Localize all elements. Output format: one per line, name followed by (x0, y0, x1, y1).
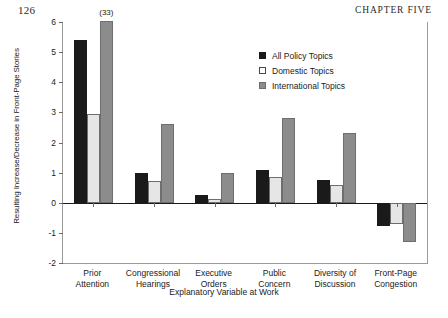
legend-item[interactable]: International Topics (259, 78, 409, 93)
bar[interactable] (330, 185, 343, 203)
y-axis-tick-label: 2 (51, 138, 56, 148)
y-axis-tick (59, 263, 63, 264)
bar[interactable] (195, 195, 208, 203)
x-axis-category-label: PriorAttention (76, 268, 110, 289)
bar[interactable] (403, 203, 416, 242)
x-axis-category-label-line: Hearings (126, 279, 180, 290)
y-axis-tick (59, 112, 63, 113)
x-axis-category-label: Diversity ofDiscussion (314, 268, 356, 289)
y-axis-tick-label: 3 (51, 107, 56, 117)
bar-group (135, 22, 174, 263)
legend-item-label: All Policy Topics (272, 51, 333, 61)
x-axis-category-label-line: Congestion (374, 279, 417, 290)
x-axis-category-label: CongressionalHearings (126, 268, 180, 289)
zero-baseline (63, 203, 427, 204)
y-axis-tick-label: 4 (51, 77, 56, 87)
bar[interactable] (317, 180, 330, 203)
x-axis-tick (397, 203, 398, 207)
y-axis-tick-label: 0 (51, 198, 56, 208)
page-header: 126 CHAPTER FIVE (0, 0, 448, 22)
bar[interactable] (269, 177, 282, 203)
y-axis-tick (59, 203, 63, 204)
bar[interactable] (256, 170, 269, 203)
bar-value-annotation: (33) (99, 8, 113, 17)
bar[interactable] (100, 21, 113, 203)
chart-legend: All Policy TopicsDomestic TopicsInternat… (259, 48, 409, 93)
x-axis-tick (275, 203, 276, 207)
bar-chart-figure: Resulting Increase/Decrease in Front-Pag… (0, 22, 448, 318)
x-axis-category-label-line: Discussion (314, 279, 356, 290)
legend-item-label: International Topics (272, 81, 345, 91)
legend-item-label: Domestic Topics (272, 66, 334, 76)
x-axis-category-label-line: Concern (258, 279, 290, 290)
y-axis-tick-label: 5 (51, 47, 56, 57)
y-axis-tick-label: 1 (51, 168, 56, 178)
x-axis-category-label: Front-PageCongestion (374, 268, 417, 289)
bar[interactable] (221, 173, 234, 203)
legend-item[interactable]: All Policy Topics (259, 48, 409, 63)
x-axis-category-label-line: Orders (195, 279, 232, 290)
x-axis-tick (93, 203, 94, 207)
bar[interactable] (343, 133, 356, 202)
x-axis-category-label: ExecutiveOrders (195, 268, 232, 289)
y-axis-tick-label: -2 (48, 258, 56, 268)
bar[interactable] (377, 203, 390, 226)
running-head: CHAPTER FIVE (355, 5, 432, 15)
y-axis-tick (59, 233, 63, 234)
x-axis-category-label-line: Front-Page (374, 268, 417, 279)
y-axis-tick (59, 22, 63, 23)
y-axis-tick (59, 52, 63, 53)
bar[interactable] (282, 118, 295, 202)
bar-group (74, 22, 113, 263)
filled-square-gray-icon (259, 82, 266, 89)
bar[interactable] (148, 181, 161, 203)
bar[interactable] (161, 124, 174, 202)
y-axis-tick (59, 82, 63, 83)
x-axis-category-label-line: Attention (76, 279, 110, 290)
y-axis-tick-label: -1 (48, 228, 56, 238)
bar-group (195, 22, 234, 263)
bar[interactable] (135, 173, 148, 203)
filled-square-black-icon (259, 52, 266, 59)
y-axis-tick (59, 143, 63, 144)
x-axis-tick (336, 203, 337, 207)
x-axis-category-label-line: Prior (76, 268, 110, 279)
x-axis-tick (215, 203, 216, 207)
x-axis-category-label-line: Congressional (126, 268, 180, 279)
x-axis-category-label: PublicConcern (258, 268, 290, 289)
bar[interactable] (87, 114, 100, 203)
x-axis-category-label-line: Public (258, 268, 290, 279)
y-axis-title: Resulting Increase/Decrease in Front-Pag… (10, 30, 24, 242)
open-square-white-icon (259, 67, 266, 74)
x-axis-tick (154, 203, 155, 207)
x-axis-category-label-line: Diversity of (314, 268, 356, 279)
y-axis-tick-label: 6 (51, 17, 56, 27)
x-axis-category-label-line: Executive (195, 268, 232, 279)
y-axis-tick (59, 173, 63, 174)
bar[interactable] (74, 40, 87, 203)
legend-item[interactable]: Domestic Topics (259, 63, 409, 78)
page-number: 126 (18, 4, 35, 16)
